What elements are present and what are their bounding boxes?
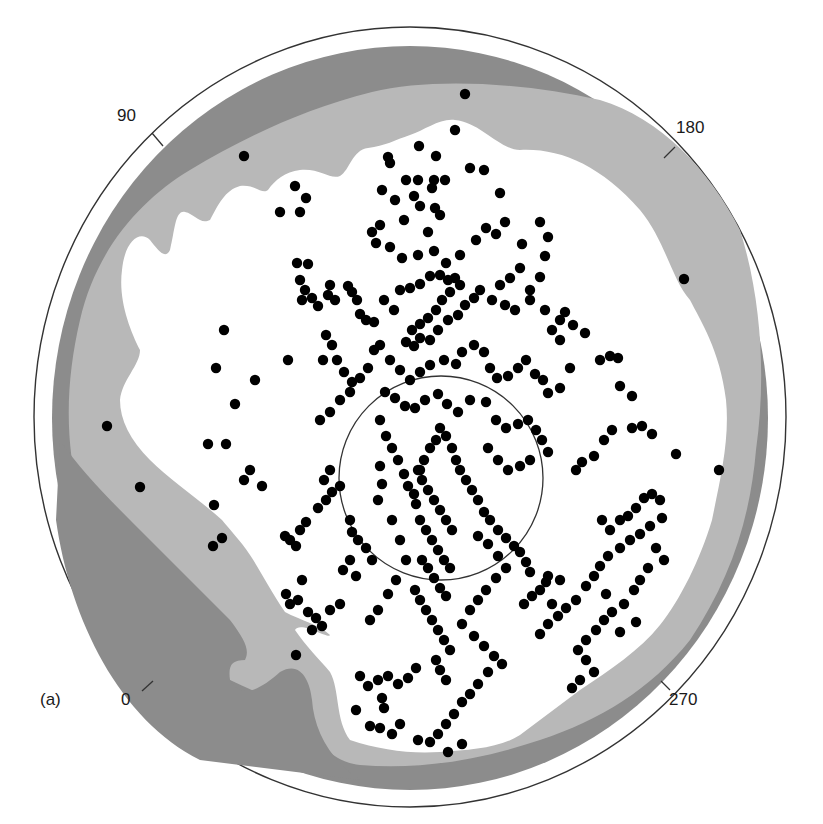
data-point xyxy=(449,709,459,719)
data-point xyxy=(395,719,405,729)
data-point xyxy=(313,503,323,513)
data-point xyxy=(423,563,433,573)
data-point xyxy=(505,273,515,283)
data-point xyxy=(451,359,461,369)
data-point xyxy=(405,283,415,293)
data-point xyxy=(597,515,607,525)
data-point xyxy=(631,503,641,513)
data-point xyxy=(380,387,390,397)
data-point xyxy=(415,367,425,377)
data-point xyxy=(410,585,420,595)
data-point xyxy=(607,607,617,617)
data-point xyxy=(460,89,470,99)
data-point xyxy=(492,373,502,383)
data-point xyxy=(379,295,389,305)
data-point xyxy=(457,739,467,749)
data-point xyxy=(629,585,639,595)
data-point xyxy=(423,485,433,495)
data-point xyxy=(495,188,505,198)
data-point xyxy=(437,295,447,305)
data-point xyxy=(501,533,511,543)
data-point xyxy=(335,481,345,491)
data-point xyxy=(135,482,145,492)
data-point xyxy=(457,347,467,357)
data-point xyxy=(479,165,489,175)
data-point xyxy=(375,220,385,230)
data-point xyxy=(635,529,645,539)
data-point xyxy=(451,455,461,465)
data-point xyxy=(319,475,329,485)
data-point xyxy=(657,513,667,523)
data-point xyxy=(371,238,381,248)
data-point xyxy=(503,371,513,381)
data-point xyxy=(395,365,405,375)
data-point xyxy=(643,563,653,573)
azimuth-label-270: 270 xyxy=(669,690,697,710)
data-point xyxy=(375,461,385,471)
data-point xyxy=(439,635,449,645)
data-point xyxy=(469,340,479,350)
data-point xyxy=(239,151,249,161)
data-point xyxy=(481,397,491,407)
data-point xyxy=(211,363,221,373)
data-point xyxy=(471,235,481,245)
data-point xyxy=(409,191,419,201)
data-point xyxy=(257,481,267,491)
data-point xyxy=(345,387,355,397)
data-point xyxy=(429,573,439,583)
data-point xyxy=(415,333,425,343)
data-point xyxy=(217,533,227,543)
data-point xyxy=(457,619,467,629)
data-point xyxy=(369,317,379,327)
data-point xyxy=(245,465,255,475)
data-point xyxy=(332,355,342,365)
data-point xyxy=(515,461,525,471)
data-point xyxy=(433,545,443,555)
data-point xyxy=(531,425,541,435)
data-point xyxy=(102,421,112,431)
data-point xyxy=(441,258,451,268)
data-point xyxy=(383,671,393,681)
data-point xyxy=(577,457,587,467)
data-point xyxy=(425,360,435,370)
data-point xyxy=(605,525,615,535)
data-point xyxy=(491,573,501,583)
data-point xyxy=(203,439,213,449)
data-point xyxy=(483,539,493,549)
data-point xyxy=(325,605,335,615)
data-point xyxy=(389,305,399,315)
data-point xyxy=(493,551,503,561)
data-point xyxy=(421,605,431,615)
data-point xyxy=(495,280,505,290)
data-point xyxy=(441,719,451,729)
data-point xyxy=(239,475,249,485)
data-point xyxy=(295,207,305,217)
data-point xyxy=(453,407,463,417)
data-point xyxy=(363,681,373,691)
data-point xyxy=(443,315,453,325)
data-point xyxy=(373,495,383,505)
data-point xyxy=(555,335,565,345)
data-point xyxy=(325,465,335,475)
data-point xyxy=(555,575,565,585)
data-point xyxy=(538,375,548,385)
data-point xyxy=(567,683,577,693)
data-point xyxy=(503,465,513,475)
data-point xyxy=(645,521,655,531)
data-point xyxy=(275,207,285,217)
data-point xyxy=(365,721,375,731)
data-point xyxy=(401,555,411,565)
data-point xyxy=(447,443,457,453)
data-point xyxy=(375,340,385,350)
data-point xyxy=(453,310,463,320)
data-point xyxy=(427,183,437,193)
data-point xyxy=(399,215,409,225)
data-point xyxy=(581,581,591,591)
azimuth-label-180: 180 xyxy=(676,118,704,138)
data-point xyxy=(595,561,605,571)
data-point xyxy=(221,439,231,449)
data-point xyxy=(535,217,545,227)
data-point xyxy=(481,223,491,233)
data-point xyxy=(281,589,291,599)
data-point xyxy=(555,383,565,393)
